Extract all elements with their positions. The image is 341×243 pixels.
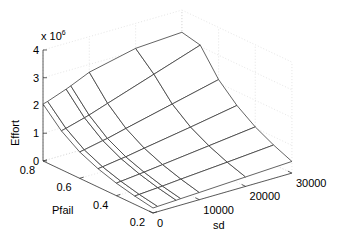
pfail-tick (80, 177, 84, 178)
pfail-tick-label: 0.4 (93, 199, 108, 211)
pfail-tick-label: 0.6 (56, 181, 71, 193)
sd-tick (195, 198, 199, 200)
sd-tick-label: 30000 (296, 177, 327, 189)
sd-tick-label: 10000 (203, 204, 234, 216)
sd-tick-label: 0 (157, 217, 163, 229)
z-axis-label: Effort (9, 120, 21, 146)
z-exponent-label: x 106 (41, 29, 66, 42)
z-tick-label: 2 (33, 99, 39, 111)
surface-mesh (43, 32, 292, 208)
pfail-tick-label: 0.2 (130, 216, 145, 228)
surface-plot: 012340.20.40.60.80100002000030000 Effort… (0, 0, 341, 243)
y-axis-label: Pfail (52, 204, 73, 216)
x-axis-label: sd (213, 219, 225, 231)
sd-tick (149, 211, 153, 213)
sd-tick (288, 171, 292, 173)
pfail-tick (116, 194, 120, 195)
sd-tick-label: 20000 (250, 190, 281, 202)
z-exponent-base: x 10 (41, 30, 62, 42)
z-tick-label: 4 (33, 44, 39, 56)
z-tick-label: 3 (33, 72, 39, 84)
z-tick-label: 1 (33, 127, 39, 139)
pfail-tick-label: 0.8 (20, 164, 35, 176)
sd-tick (242, 184, 246, 186)
z-exponent-power: 6 (62, 29, 66, 36)
